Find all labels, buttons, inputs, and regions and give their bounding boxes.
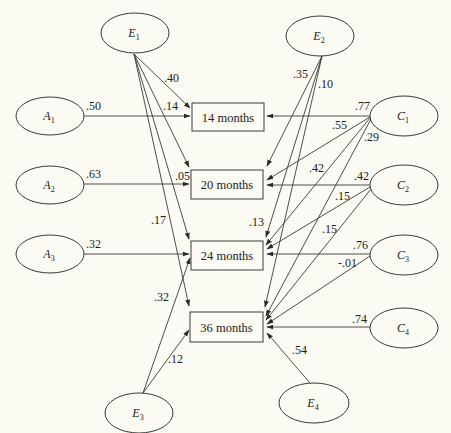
box-label: 20 months (201, 178, 254, 192)
path-coefficient: .63 (86, 167, 101, 181)
path-coefficient: .77 (355, 99, 370, 113)
path-coefficient: .42 (354, 169, 369, 183)
path-coefficient: .42 (309, 161, 324, 175)
path-coefficient: .15 (322, 222, 337, 236)
path-coefficient: .76 (353, 238, 368, 252)
path-coefficient: .10 (318, 77, 333, 91)
path-coefficient: .15 (335, 189, 350, 203)
path-coefficient: -.01 (338, 256, 357, 270)
latent-e1: E1 (101, 13, 169, 53)
latent-label: A3 (42, 247, 54, 263)
latent-subscript: 3 (140, 413, 144, 422)
latent-label: A2 (42, 178, 54, 194)
latent-label: E3 (131, 406, 143, 422)
latent-subscript: 1 (136, 33, 140, 42)
path-coefficient: .05 (175, 169, 190, 183)
box-m20: 20 months (191, 170, 263, 199)
latent-a1: A1 (16, 97, 84, 135)
latent-a3: A3 (16, 235, 84, 273)
latent-label: A1 (42, 109, 54, 125)
path-coefficient: .74 (352, 312, 367, 326)
latent-subscript: 3 (51, 254, 55, 263)
latent-variable-layer: E1E2A1A2A3C1C2C3C4E3E4 (16, 13, 438, 433)
path-coefficient: .32 (86, 237, 101, 251)
latent-label: E4 (306, 396, 318, 412)
path-coefficient: .32 (154, 290, 169, 304)
latent-label: E1 (127, 26, 139, 42)
latent-e3: E3 (105, 393, 173, 433)
latent-label: C4 (397, 321, 409, 337)
path-coefficient: .13 (249, 215, 264, 229)
latent-subscript: 1 (405, 116, 409, 125)
latent-label: C2 (397, 178, 409, 194)
path-coefficient: .29 (364, 130, 379, 144)
path-coefficient: .40 (164, 71, 179, 85)
latent-subscript: 4 (405, 328, 409, 337)
path-arrow-c2-to-m36 (266, 189, 371, 320)
latent-subscript: 2 (405, 185, 409, 194)
box-label: 36 months (200, 321, 253, 335)
latent-subscript: 2 (51, 185, 55, 194)
path-diagram: .50.63.32.40.14.05.17.32.12.35.10.13.77.… (0, 0, 451, 433)
latent-c1: C1 (370, 96, 438, 136)
path-arrow-e3-to-m24 (143, 258, 190, 393)
box-m24: 24 months (191, 241, 263, 270)
latent-c3: C3 (370, 235, 438, 275)
latent-subscript: 4 (315, 403, 319, 412)
latent-label: E2 (312, 29, 324, 45)
path-coefficient: .54 (292, 343, 307, 357)
latent-c2: C2 (370, 165, 438, 205)
path-arrow-e1-to-m24 (134, 54, 189, 239)
path-coefficient: .50 (86, 99, 101, 113)
box-label: 14 months (202, 111, 255, 125)
latent-e4: E4 (279, 383, 349, 423)
latent-subscript: 2 (321, 36, 325, 45)
path-arrow-e2-to-m24 (266, 56, 322, 237)
path-arrow-e2-to-m36 (265, 56, 322, 307)
path-coefficient: .35 (293, 67, 308, 81)
path-coefficient: .17 (151, 213, 166, 227)
box-m14: 14 months (192, 103, 264, 131)
latent-label: C1 (397, 109, 409, 125)
box-label: 24 months (201, 249, 254, 263)
latent-c4: C4 (370, 308, 438, 348)
latent-label: C3 (397, 248, 409, 264)
path-coefficient: .12 (168, 352, 183, 366)
latent-e2: E2 (286, 16, 354, 56)
box-m36: 36 months (190, 312, 263, 342)
latent-subscript: 1 (51, 116, 55, 125)
path-coefficient: .14 (163, 99, 178, 113)
path-arrow-e1-to-m20 (134, 54, 189, 167)
path-arrow-e4-to-m36 (267, 333, 310, 383)
path-coefficient: .55 (332, 118, 347, 132)
latent-a2: A2 (16, 166, 84, 204)
latent-subscript: 3 (405, 255, 409, 264)
